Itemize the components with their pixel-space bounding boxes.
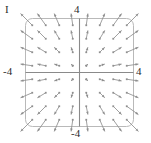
vector-arrow-tail [72,105,74,107]
vector-arrow-tail [45,92,47,94]
vector-field-plot [0,0,151,143]
vector-arrow-tail [31,92,33,94]
vector-arrow-tail [126,51,128,53]
vector-arrow-tail [31,105,33,107]
vector-arrow-tail [58,65,60,67]
vector-arrow-tail [58,105,60,107]
vector-arrow-tail [112,38,114,40]
vector-arrow-tail [72,65,74,67]
vector-arrow-tail [58,119,60,121]
vector-arrow-tail [31,51,33,53]
vector-arrow-tail [85,51,87,53]
vector-arrow-tail [126,38,128,40]
vector-arrow-tail [45,78,47,80]
vector-arrow-tail [99,24,101,26]
vector-field-figure: I 4 -4 4 -4 [0,0,151,143]
vector-arrow-tail [112,92,114,94]
vector-arrow-tail [45,24,47,26]
vector-arrow-tail [58,78,60,80]
vector-arrow-tail [85,24,87,26]
vector-arrow-tail [31,65,33,67]
vector-arrow-tail [45,105,47,107]
vector-arrow-tail [58,92,60,94]
axis-label-left: -4 [3,66,12,77]
vector-arrow-tail [72,119,74,121]
vector-arrow-tail [126,78,128,80]
vector-arrow-tail [99,105,101,107]
vector-arrow-tail [99,78,101,80]
vector-arrow-tail [112,105,114,107]
vector-arrow-tail [72,24,74,26]
axis-label-bottom: -4 [71,128,80,139]
vector-arrow-tail [99,65,101,67]
vector-arrow-tail [85,105,87,107]
vector-arrow-tail [112,65,114,67]
vector-arrow-tail [112,119,114,121]
vector-arrow-tail [126,105,128,107]
vector-arrow-tail [58,51,60,53]
vector-arrow-tail [85,78,87,80]
axis-label-top: 4 [74,4,80,15]
vector-arrow-tail [58,24,60,26]
vector-arrow-tail [112,78,114,80]
vector-arrow-tail [72,78,74,80]
vector-arrow-tail [85,38,87,40]
vector-arrow-tail [85,119,87,121]
vector-arrow-tail [112,51,114,53]
vector-arrow-tail [31,24,33,26]
vector-arrow-tail [31,78,33,80]
vector-arrow-tail [112,24,114,26]
vector-arrow-tail [45,65,47,67]
vector-arrow-tail [45,38,47,40]
vector-arrow-tail [126,24,128,26]
vector-arrow-tail [72,92,74,94]
vector-arrow-tail [99,119,101,121]
vector-arrow-tail [72,51,74,53]
vector-arrow-tail [31,119,33,121]
vector-arrow-tail [45,119,47,121]
vector-arrow-tail [99,38,101,40]
axis-label-right: 4 [136,66,142,77]
vector-arrow-tail [72,38,74,40]
vector-arrow-tail [85,65,87,67]
vector-arrow-tail [45,51,47,53]
vector-arrow-tail [99,92,101,94]
vector-arrow-tail [126,119,128,121]
panel-label: I [5,4,9,15]
vector-arrow-tail [85,92,87,94]
vector-arrow-tail [31,38,33,40]
vector-arrow-tail [58,38,60,40]
vector-arrow-tail [126,92,128,94]
vector-arrow-tail [99,51,101,53]
vector-arrow-tail [126,65,128,67]
